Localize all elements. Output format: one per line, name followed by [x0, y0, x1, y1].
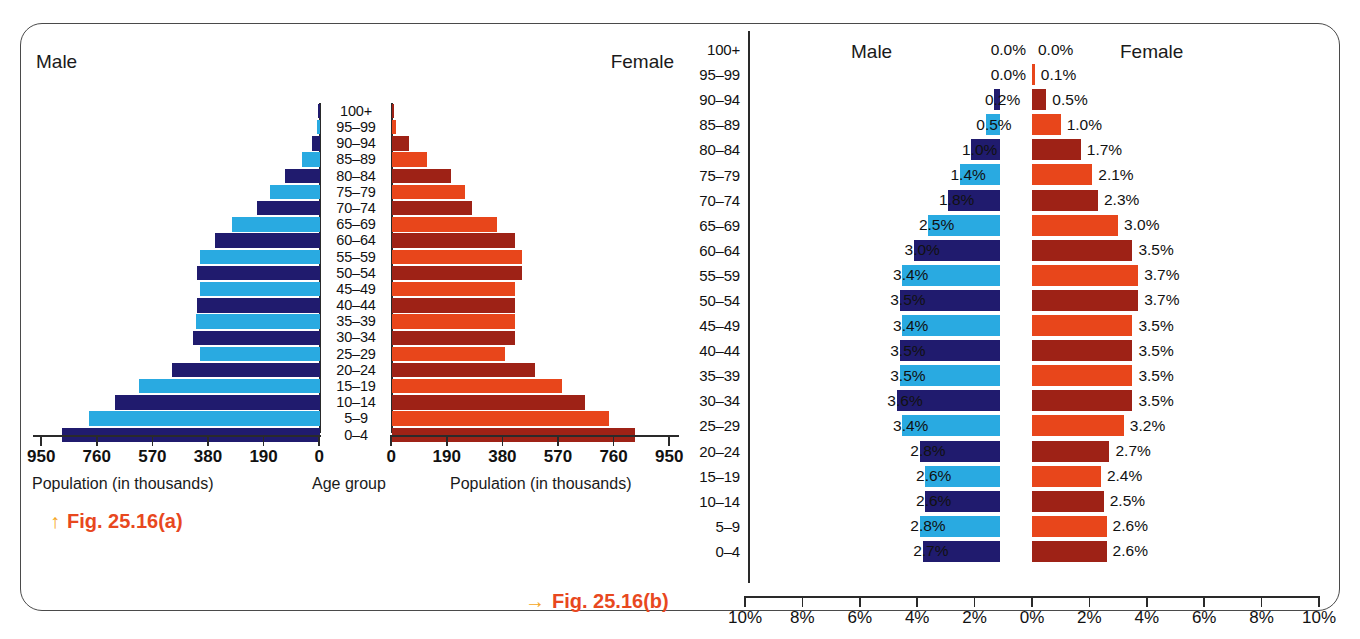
- chart-b-male-value: 3.4%: [893, 313, 928, 338]
- chart-b-male-value: 0.2%: [985, 87, 1020, 112]
- chart-a-male-cell: [20, 265, 320, 281]
- figure-a-text: Fig. 25.16(a): [67, 510, 183, 532]
- chart-b-female-value: 1.7%: [1087, 137, 1122, 162]
- chart-b-tick-label-6: 2%: [1077, 608, 1102, 628]
- chart-a-female-bar: [392, 298, 515, 312]
- chart-a-male-cell: [20, 330, 320, 346]
- chart-b-female-value: 0.0%: [1038, 37, 1073, 62]
- chart-b-tick-8: [1203, 596, 1205, 607]
- chart-b-female-value: 2.6%: [1113, 539, 1148, 564]
- chart-a-male-cell: [20, 346, 320, 362]
- chart-b-male-value: 3.5%: [890, 363, 925, 388]
- chart-a-left-caption: Population (in thousands): [32, 475, 213, 493]
- chart-b-tick-label-4: 2%: [962, 608, 987, 628]
- chart-b-male-value: 1.4%: [950, 162, 985, 187]
- chart-a-female-bar: [392, 266, 522, 280]
- chart-a-male-label: Male: [36, 51, 77, 73]
- chart-a-male-cell: [20, 152, 320, 168]
- chart-a-right-1-label: 190: [433, 447, 461, 467]
- chart-a-left-0-tick: [40, 435, 42, 446]
- chart-b-row: 40–443.5%3.5%: [692, 338, 1340, 363]
- chart-b-age-label: 65–69: [692, 213, 740, 238]
- chart-b-male-value: 3.5%: [890, 338, 925, 363]
- chart-a-right-3-label: 570: [544, 447, 572, 467]
- chart-a-female-bar: [392, 331, 515, 345]
- chart-b-female-bar: [1032, 491, 1104, 512]
- chart-a-male-bar: [270, 185, 320, 199]
- chart-a-row: 5–9: [20, 411, 692, 427]
- chart-b-age-label: 50–54: [692, 288, 740, 313]
- chart-b-tick-3: [916, 596, 918, 607]
- chart-a-row: 15–19: [20, 378, 692, 394]
- chart-a-female-bar: [392, 185, 465, 199]
- chart-b-age-label: 100+: [692, 37, 740, 62]
- chart-b-male-value: 2.6%: [916, 489, 951, 514]
- chart-a-female-cell: [392, 216, 692, 232]
- chart-a-male-cell: [20, 216, 320, 232]
- chart-b-female-bar: [1032, 190, 1098, 211]
- chart-b-female-bar: [1032, 89, 1046, 110]
- chart-b-axis: 10%8%6%4%2%0%2%4%6%8%10%: [692, 596, 1340, 610]
- chart-a-row: 85–89: [20, 152, 692, 168]
- chart-a-female-bar: [392, 379, 562, 393]
- chart-a-left-1-tick: [96, 435, 98, 446]
- chart-b-female-bar: [1032, 139, 1081, 160]
- chart-a-female-bar: [392, 233, 515, 247]
- chart-a-row: 95–99: [20, 119, 692, 135]
- chart-b-male-value: 2.8%: [910, 439, 945, 464]
- chart-a-age-label: 15–19: [320, 378, 392, 394]
- chart-a-right-0-tick: [390, 435, 392, 446]
- chart-b-female-bar: [1032, 466, 1101, 487]
- chart-a-age-label: 80–84: [320, 168, 392, 184]
- chart-a-female-bar: [392, 136, 409, 150]
- chart-b-row: 0–42.7%2.6%: [692, 539, 1340, 564]
- chart-b-tick-label-8: 6%: [1192, 608, 1217, 628]
- chart-a-male-cell: [20, 297, 320, 313]
- chart-a-female-cell: [392, 249, 692, 265]
- chart-b-female-bar: [1032, 541, 1107, 562]
- chart-a-right-2-tick: [502, 435, 504, 446]
- chart-a-male-cell: [20, 394, 320, 410]
- chart-b-male-value: 3.4%: [893, 413, 928, 438]
- chart-b-female-bar: [1032, 215, 1118, 236]
- chart-a-age-label: 100+: [320, 103, 392, 119]
- chart-b-tick-label-9: 8%: [1249, 608, 1274, 628]
- chart-b-female-bar: [1032, 415, 1124, 436]
- figure-root: Male Female 100+95–9990–9485–8980–8475–7…: [0, 0, 1360, 639]
- chart-b-row: 5–92.8%2.6%: [692, 514, 1340, 539]
- chart-a-male-cell: [20, 233, 320, 249]
- chart-b-male-value: 0.0%: [991, 62, 1026, 87]
- chart-a-male-cell: [20, 378, 320, 394]
- up-arrow-icon: ↑: [50, 510, 60, 533]
- chart-b-tick-label-5: 0%: [1020, 608, 1045, 628]
- chart-a-age-label: 95–99: [320, 119, 392, 135]
- figure-a-label: ↑Fig. 25.16(a): [50, 510, 183, 533]
- chart-b-age-label: 60–64: [692, 238, 740, 263]
- chart-a-male-bar: [317, 120, 321, 134]
- chart-b-row: 100+0.0%0.0%: [692, 37, 1340, 62]
- chart-a-female-cell: [392, 152, 692, 168]
- chart-b-tick-label-10: 10%: [1302, 608, 1336, 628]
- chart-a-female-bar: [392, 152, 427, 166]
- chart-b-female-bar: [1032, 164, 1092, 185]
- chart-a-age-label: 5–9: [320, 411, 392, 427]
- chart-b-row: 30–343.6%3.5%: [692, 388, 1340, 413]
- chart-a-left-3-label: 380: [194, 447, 222, 467]
- chart-b-percentage-pyramid: Male Female 100+0.0%0.0%95–990.0%0.1%90–…: [692, 23, 1340, 611]
- chart-b-female-bar: [1032, 240, 1132, 261]
- chart-a-male-bar: [312, 136, 320, 150]
- chart-a-age-label: 65–69: [320, 216, 392, 232]
- chart-b-female-value: 3.7%: [1144, 263, 1179, 288]
- chart-a-female-cell: [392, 119, 692, 135]
- chart-a-female-cell: [392, 394, 692, 410]
- chart-a-male-bar: [232, 217, 320, 231]
- chart-a-population-pyramid: Male Female 100+95–9990–9485–8980–8475–7…: [20, 23, 692, 611]
- chart-a-female-bar: [392, 104, 394, 118]
- chart-a-female-bar: [392, 169, 451, 183]
- chart-b-female-bar: [1032, 64, 1035, 85]
- chart-a-age-label: 50–54: [320, 265, 392, 281]
- chart-b-female-value: 3.2%: [1130, 413, 1165, 438]
- chart-a-age-label: 35–39: [320, 313, 392, 329]
- chart-b-female-bar: [1032, 365, 1132, 386]
- chart-a-male-bar: [200, 250, 320, 264]
